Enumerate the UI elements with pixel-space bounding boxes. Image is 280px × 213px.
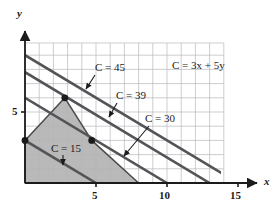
level-label-c39: C = 39: [116, 90, 146, 101]
vertex-dot: [61, 94, 68, 101]
leader-c45: [86, 75, 95, 89]
x-tick-label-10: 10: [159, 190, 170, 201]
x-tick-label-5: 5: [92, 190, 98, 201]
linear-programming-figure: y x 5 5 10 15 C = 3x + 5y C = 45 C = 39 …: [0, 0, 280, 213]
y-axis-label: y: [17, 8, 22, 19]
graph-canvas: [0, 0, 280, 213]
x-axis-label: x: [264, 176, 270, 187]
vertex-dot: [88, 137, 95, 144]
level-label-c45: C = 45: [95, 62, 125, 73]
y-tick-label-5: 5: [12, 106, 18, 117]
leader-c30: [124, 126, 149, 156]
level-label-c15: C = 15: [51, 143, 81, 154]
x-tick-label-15: 15: [230, 190, 241, 201]
objective-function-label: C = 3x + 5y: [172, 60, 225, 71]
level-label-c30: C = 30: [145, 113, 175, 124]
